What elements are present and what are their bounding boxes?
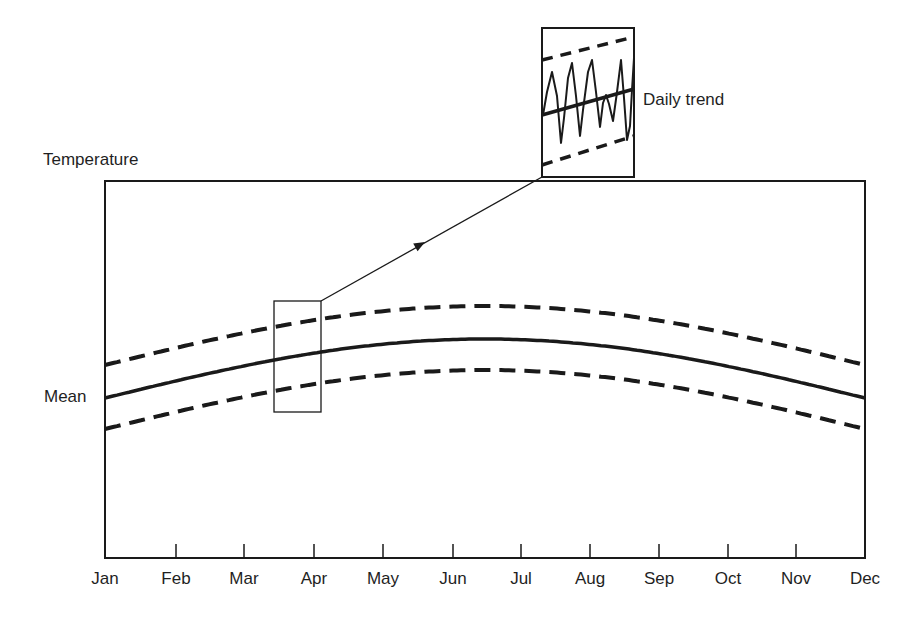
month-label-apr: Apr bbox=[301, 569, 327, 589]
month-label-may: May bbox=[367, 569, 399, 589]
inset-magnified-view bbox=[542, 28, 634, 177]
month-label-mar: Mar bbox=[229, 569, 258, 589]
month-label-jan: Jan bbox=[91, 569, 118, 589]
upper-bound-dashed-line bbox=[105, 306, 865, 365]
month-label-feb: Feb bbox=[161, 569, 190, 589]
month-label-oct: Oct bbox=[715, 569, 741, 589]
temperature-chart bbox=[0, 0, 910, 623]
month-label-nov: Nov bbox=[781, 569, 811, 589]
lower-bound-dashed-line bbox=[105, 370, 865, 429]
arrowhead-icon bbox=[413, 242, 425, 251]
y-axis-label: Temperature bbox=[43, 150, 138, 170]
inset-label: Daily trend bbox=[643, 90, 724, 110]
month-label-jun: Jun bbox=[439, 569, 466, 589]
month-label-jul: Jul bbox=[510, 569, 532, 589]
month-label-sep: Sep bbox=[644, 569, 674, 589]
x-axis-ticks bbox=[176, 544, 796, 558]
month-label-dec: Dec bbox=[850, 569, 880, 589]
magnify-arrow bbox=[321, 177, 542, 301]
mean-label: Mean bbox=[44, 387, 87, 407]
month-label-aug: Aug bbox=[575, 569, 605, 589]
